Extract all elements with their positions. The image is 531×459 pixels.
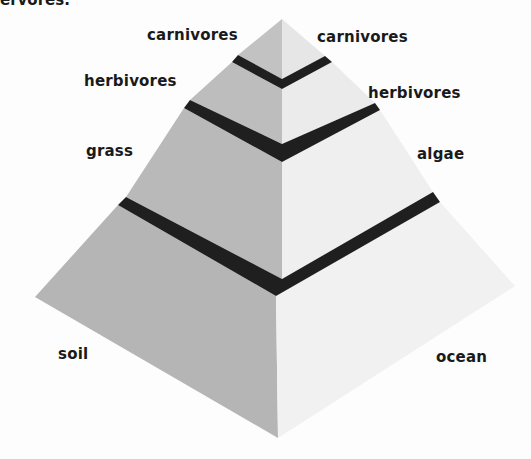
label-right-herbivores: herbivores xyxy=(368,84,461,102)
label-right-ocean: ocean xyxy=(436,348,487,366)
label-right-carnivores: carnivores xyxy=(317,28,408,46)
label-left-soil: soil xyxy=(58,345,88,363)
food-pyramid-diagram xyxy=(0,0,531,459)
label-left-herbivores: herbivores xyxy=(84,72,177,90)
label-left-grass: grass xyxy=(86,142,133,160)
label-right-algae: algae xyxy=(417,145,464,163)
label-left-carnivores: carnivores xyxy=(147,26,238,44)
right-face-ocean xyxy=(276,19,515,438)
